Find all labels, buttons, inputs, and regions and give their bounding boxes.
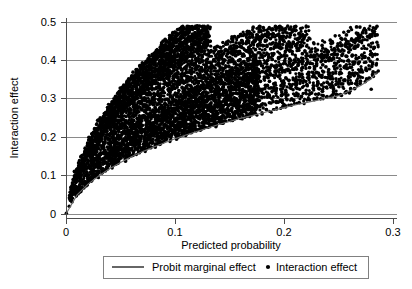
scatter-point — [363, 51, 366, 54]
scatter-point — [357, 61, 360, 64]
scatter-point — [107, 162, 110, 165]
scatter-point — [272, 95, 275, 98]
scatter-point — [135, 97, 139, 101]
scatter-point — [339, 36, 343, 40]
scatter-point — [315, 59, 318, 62]
scatter-point — [228, 115, 232, 119]
legend-label-probit: Probit marginal effect — [152, 261, 256, 273]
scatter-point — [301, 86, 304, 89]
scatter-point — [322, 70, 325, 73]
scatter-point — [159, 123, 162, 126]
scatter-point — [341, 85, 344, 88]
scatter-point — [357, 39, 360, 42]
scatter-point — [186, 75, 190, 79]
scatter-point — [326, 53, 330, 57]
scatter-point — [172, 83, 176, 87]
scatter-point — [126, 129, 130, 133]
scatter-point — [335, 80, 338, 83]
scatter-point — [300, 60, 304, 64]
scatter-point — [217, 95, 221, 99]
scatter-point — [300, 56, 303, 59]
scatter-point — [163, 113, 167, 117]
scatter-point — [230, 70, 234, 74]
scatter-point — [95, 156, 98, 159]
scatter-point — [248, 57, 251, 60]
scatter-point — [99, 121, 102, 124]
scatter-point — [339, 41, 342, 44]
scatter-point — [322, 85, 325, 88]
scatter-point — [239, 91, 243, 95]
scatter-point — [153, 92, 156, 95]
scatter-point — [115, 136, 118, 139]
scatter-point — [97, 135, 101, 139]
scatter-point — [332, 56, 335, 59]
scatter-point — [83, 152, 86, 155]
scatter-point — [88, 148, 92, 152]
scatter-point — [103, 113, 106, 116]
scatter-point — [291, 40, 295, 44]
scatter-point — [145, 116, 148, 119]
scatter-point — [86, 153, 90, 157]
scatter-point — [78, 179, 81, 182]
scatter-point — [274, 60, 277, 63]
scatter-point — [203, 104, 207, 108]
scatter-point — [96, 118, 100, 122]
scatter-point — [321, 90, 325, 94]
scatter-point — [284, 88, 288, 92]
scatter-point — [299, 27, 303, 31]
scatter-point — [304, 67, 307, 70]
legend-dot-swatch — [266, 265, 270, 269]
scatter-point — [206, 39, 209, 42]
scatter-point — [86, 141, 89, 144]
scatter-point — [242, 52, 246, 56]
scatter-point — [182, 66, 186, 70]
scatter-point — [128, 154, 131, 157]
scatter-point — [274, 81, 277, 84]
scatter-point — [141, 61, 144, 64]
scatter-point — [118, 137, 122, 141]
scatter-point — [276, 44, 280, 48]
scatter-point — [232, 96, 235, 99]
scatter-point — [120, 90, 123, 93]
scatter-point — [130, 74, 133, 77]
scatter-point — [179, 36, 183, 40]
scatter-point — [368, 24, 371, 27]
scatter-point — [248, 40, 251, 43]
scatter-point — [274, 38, 277, 41]
scatter-point — [95, 138, 99, 142]
scatter-point — [251, 68, 255, 72]
scatter-point — [330, 46, 333, 49]
scatter-point — [232, 115, 236, 119]
scatter-point — [265, 51, 268, 54]
scatter-point — [265, 108, 269, 112]
scatter-point — [264, 76, 267, 79]
scatter-point — [279, 42, 282, 45]
scatter-point — [161, 134, 164, 137]
scatter-point — [98, 116, 101, 119]
scatter-point — [217, 62, 221, 66]
scatter-point — [248, 79, 252, 83]
scatter-point — [230, 84, 233, 87]
scatter-point — [183, 113, 186, 116]
scatter-point — [139, 124, 143, 128]
scatter-point — [315, 71, 319, 75]
scatter-point — [240, 67, 243, 70]
scatter-point — [347, 58, 350, 61]
scatter-point — [103, 140, 106, 143]
scatter-point — [339, 68, 342, 71]
scatter-point — [294, 72, 297, 75]
scatter-point — [109, 145, 112, 148]
y-tick-label-0-4: 0.4 — [41, 54, 56, 66]
scatter-point — [300, 67, 303, 70]
scatter-point — [336, 44, 340, 48]
scatter-point — [206, 99, 209, 102]
scatter-point — [329, 56, 332, 59]
scatter-point — [78, 159, 81, 162]
scatter-point — [355, 72, 358, 75]
scatter-point — [351, 72, 354, 75]
scatter-point — [335, 90, 338, 93]
scatter-point — [71, 178, 75, 182]
scatter-point — [338, 64, 342, 68]
scatter-point — [149, 138, 152, 141]
scatter-point — [106, 106, 109, 109]
